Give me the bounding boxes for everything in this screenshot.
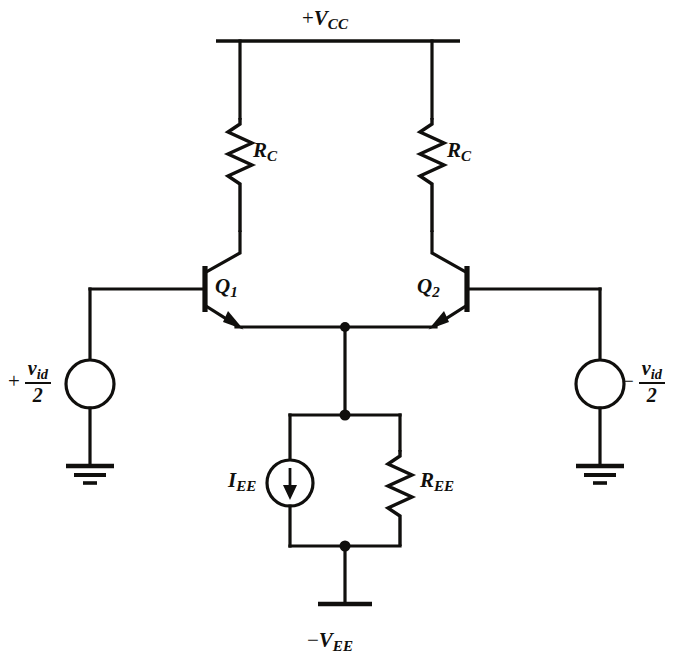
current-source-iee <box>267 415 313 546</box>
label-source-left: + vid 2 <box>8 358 51 405</box>
source-left-num-symbol: v <box>28 357 37 379</box>
source-right-sign: − <box>622 371 634 392</box>
source-left-denominator: 2 <box>31 384 45 405</box>
source-right-num-subscript: id <box>651 366 662 382</box>
resistor-ree <box>388 415 412 546</box>
source-right-num-symbol: v <box>642 357 651 379</box>
source-left-num-subscript: id <box>37 366 48 382</box>
rc-left-zigzag <box>228 118 252 232</box>
rc-right-subscript: C <box>461 148 471 164</box>
vcc-subscript: CC <box>328 16 348 32</box>
schematic-canvas <box>0 0 682 663</box>
resistor-rc-right <box>420 118 444 232</box>
ree-subscript: EE <box>434 478 454 494</box>
q2-symbol: Q <box>417 274 432 298</box>
resistor-rc-left <box>228 118 252 232</box>
label-rc-left: RC <box>253 140 277 164</box>
ground-left <box>66 466 114 483</box>
rc-right-zigzag <box>420 118 444 232</box>
label-rc-right: RC <box>447 140 471 164</box>
label-vee: −VEE <box>307 630 353 654</box>
label-q1: Q1 <box>215 276 238 300</box>
q1-collector-lead <box>206 232 240 272</box>
label-iee: IEE <box>228 470 256 494</box>
source-left-fraction: vid 2 <box>25 358 51 405</box>
circuit-diagram: +VCC RC RC Q1 Q2 IEE REE −VEE + vid 2 − … <box>0 0 682 663</box>
ree-zigzag <box>388 450 412 546</box>
source-right-denominator: 2 <box>645 384 659 405</box>
rc-left-subscript: C <box>267 148 277 164</box>
q1-symbol: Q <box>215 274 230 298</box>
q2-collector-lead <box>432 232 466 272</box>
vee-symbol: V <box>319 628 333 652</box>
left-source-circle <box>66 360 114 408</box>
vcc-symbol: V <box>314 6 328 30</box>
iee-subscript: EE <box>236 478 256 494</box>
q1-subscript: 1 <box>230 284 238 300</box>
source-left-numerator: vid <box>26 358 50 382</box>
right-source-circle <box>576 360 624 408</box>
tail-network <box>267 415 412 604</box>
ree-symbol: R <box>420 468 434 492</box>
rc-right-symbol: R <box>447 138 461 162</box>
ground-right <box>576 466 624 483</box>
transistor-q2 <box>345 232 600 330</box>
voltage-source-left <box>66 289 114 483</box>
vcc-rail <box>216 41 460 118</box>
rc-left-symbol: R <box>253 138 267 162</box>
label-source-right: − vid 2 <box>622 358 665 405</box>
vee-sign: − <box>307 628 319 652</box>
vcc-sign: + <box>302 6 314 30</box>
voltage-source-right <box>576 289 624 483</box>
label-ree: REE <box>420 470 454 494</box>
vee-subscript: EE <box>333 638 353 654</box>
q2-subscript: 2 <box>432 284 440 300</box>
iee-symbol: I <box>228 468 236 492</box>
label-q2: Q2 <box>417 276 440 300</box>
source-right-fraction: vid 2 <box>639 358 665 405</box>
emitter-common-node <box>340 322 351 421</box>
label-vcc: +VCC <box>302 8 348 32</box>
source-right-numerator: vid <box>640 358 664 382</box>
source-left-sign: + <box>8 371 20 392</box>
